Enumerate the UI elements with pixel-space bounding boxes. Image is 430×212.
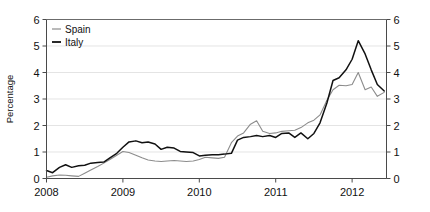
line-chart: 0123456 0123456 20082009201020112012 Spa… <box>0 0 430 212</box>
y-tick-label-left-3: 3 <box>33 93 39 105</box>
legend-label-spain: Spain <box>65 24 91 35</box>
y-tick-label-right-0: 0 <box>394 173 400 185</box>
x-tick-label-2011: 2011 <box>264 186 288 198</box>
y-tick-label-left-4: 4 <box>33 67 39 79</box>
chart-container: 0123456 0123456 20082009201020112012 Spa… <box>0 0 430 212</box>
y-tick-label-right-5: 5 <box>394 40 400 52</box>
y-tick-label-right-4: 4 <box>394 67 400 79</box>
x-tick-label-2008: 2008 <box>34 186 58 198</box>
x-tick-label-2009: 2009 <box>111 186 135 198</box>
y-tick-label-right-2: 2 <box>394 120 400 132</box>
y-tick-label-right-6: 6 <box>394 14 400 26</box>
y-tick-label-right-3: 3 <box>394 93 400 105</box>
y-tick-label-left-2: 2 <box>33 120 39 132</box>
y-tick-label-left-5: 5 <box>33 40 39 52</box>
y-tick-label-right-1: 1 <box>394 146 400 158</box>
y-tick-label-left-1: 1 <box>33 146 39 158</box>
y-tick-label-left-0: 0 <box>33 173 39 185</box>
y-axis-title: Percentage <box>4 75 15 124</box>
x-tick-label-2010: 2010 <box>187 186 211 198</box>
y-tick-label-left-6: 6 <box>33 14 39 26</box>
x-tick-label-2012: 2012 <box>340 186 364 198</box>
legend-label-italy: Italy <box>65 37 83 48</box>
